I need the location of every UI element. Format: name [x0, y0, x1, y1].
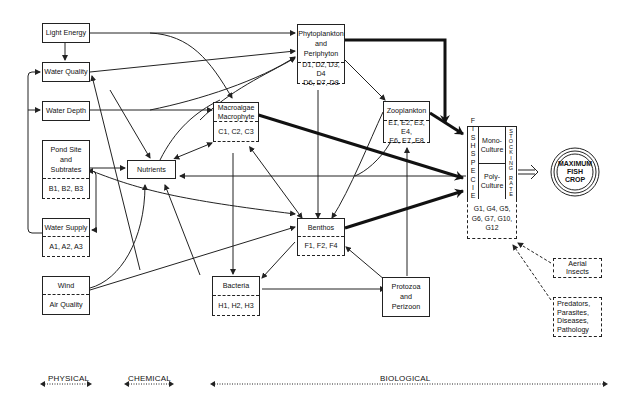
label-line: Macroalgae	[218, 103, 255, 112]
node-label: Water Quality	[44, 67, 87, 77]
node-codes: E1, E2, E3, E4, E6, E7, E8	[384, 120, 429, 142]
node-label: Water Supply	[43, 219, 89, 236]
stocking-rate-vertical-label: S T O C K I N G R A T E	[505, 127, 516, 199]
node-codes: H1, H2, H3	[213, 295, 259, 315]
codes-text: A1, A2, A3	[49, 242, 83, 252]
node-bacteria: Bacteria H1, H2, H3	[212, 276, 260, 316]
codes-text: F1, F2, F4	[304, 241, 337, 251]
label-line: Periphyton	[304, 49, 338, 59]
char: G	[509, 166, 513, 171]
label-line: Mono-	[482, 136, 502, 145]
node-label: Water Depth	[46, 106, 86, 116]
node-wind: Wind Air Quality	[42, 276, 90, 315]
char: H	[470, 142, 475, 150]
node-water-quality: Water Quality	[42, 62, 90, 82]
codes-text: G12	[486, 223, 499, 233]
label-line: and	[60, 155, 72, 165]
fish-species-vertical-label: F I S H S P E C I E S	[468, 127, 479, 199]
node-nutrients: Nutrients	[127, 160, 176, 179]
label-line: Culture	[481, 181, 504, 190]
label-line: and	[315, 39, 327, 49]
node-sub-label: Air Quality	[43, 294, 89, 314]
node-macroalgae: Macroalgae Macrophyte C1, C2, C3	[213, 102, 259, 142]
label-line: Macrophyte	[218, 112, 255, 121]
char: E	[471, 167, 476, 175]
label-line: Zooplankton	[387, 106, 427, 116]
codes-text: E6, E7, E8	[389, 136, 423, 145]
char: E	[509, 192, 513, 197]
codes-text: E1, E2, E3, E4,	[384, 118, 429, 136]
codes-text: G1, G4, G5,	[474, 204, 511, 214]
codes-text: D1, D2, D3, D4	[298, 60, 344, 78]
label-line: CROP	[553, 176, 597, 184]
char: F	[471, 117, 475, 125]
scale-biological: BIOLOGICAL	[380, 374, 430, 383]
max-fish-crop-label: MAXIMUM FISH CROP	[553, 160, 597, 184]
codes-text: H1, H2, H3	[218, 301, 254, 311]
label-line: and	[400, 292, 412, 302]
pond-ecosystem-diagram: Light Energy Water Quality Water Depth P…	[0, 0, 636, 410]
node-phytoplankton: Phytoplankton and Periphyton D1, D2, D3,…	[297, 24, 345, 84]
node-codes: F1, F2, F4	[298, 236, 344, 255]
scale-physical: PHYSICAL	[48, 374, 89, 383]
label-line: Perizoon	[392, 302, 420, 312]
node-predators: Predators, Parasites, Diseases, Patholog…	[553, 297, 602, 337]
codes-text: C1, C2, C3	[218, 127, 254, 137]
char: I	[472, 184, 474, 192]
char: I	[472, 125, 474, 133]
codes-text: B1, B2, B3	[49, 184, 83, 194]
label-line: Poly-	[484, 172, 500, 181]
node-label: Nutrients	[137, 165, 166, 175]
codes-text: G6, G7, G10,	[472, 214, 512, 224]
poly-culture: Poly- Culture	[479, 164, 505, 200]
node-label: Bacteria	[213, 277, 259, 295]
label-line: Insects	[566, 268, 589, 276]
label-line: Pond Site	[50, 145, 81, 155]
node-codes: B1, B2, B3	[43, 178, 89, 198]
fish-codes: G1, G4, G5, G6, G7, G10, G12	[467, 199, 517, 239]
label-line: Bacteria	[223, 281, 249, 291]
label-line: Protozoa	[392, 282, 421, 292]
char: P	[471, 159, 476, 167]
node-zooplankton: Zooplankton E1, E2, E3, E4, E6, E7, E8	[383, 101, 430, 143]
node-fish-species: F I S H S P E C I E S Mono- Culture Poly…	[467, 126, 517, 200]
char: S	[471, 134, 476, 142]
node-water-depth: Water Depth	[42, 101, 90, 121]
node-codes: D1, D2, D3, D4 D6, D7, D8	[298, 62, 344, 83]
node-light-energy: Light Energy	[42, 23, 90, 43]
node-codes: A1, A2, A3	[43, 236, 89, 256]
node-label: Macroalgae Macrophyte	[214, 103, 258, 121]
node-aerial-insects: Aerial Insects	[553, 258, 602, 278]
node-label: Pond Site and Subtrates	[43, 141, 89, 178]
node-label: Light Energy	[46, 28, 86, 38]
label-line: Phytoplankton	[298, 29, 344, 39]
label-line: Subtrates	[51, 165, 82, 175]
culture-column: Mono- Culture Poly- Culture	[479, 127, 505, 199]
node-protozoa: Protozoa and Perizoon	[382, 277, 430, 317]
node-water-supply: Water Supply A1, A2, A3	[42, 218, 90, 257]
label-line: FISH	[553, 168, 597, 176]
char: C	[470, 176, 475, 184]
scale-chemical: CHEMICAL	[128, 374, 171, 383]
label-line: MAXIMUM	[553, 160, 597, 168]
mono-culture: Mono- Culture	[479, 127, 505, 164]
node-pond-site: Pond Site and Subtrates B1, B2, B3	[42, 140, 90, 199]
node-codes: C1, C2, C3	[214, 121, 258, 141]
label-line: Wind	[58, 281, 74, 291]
label-line: Culture	[481, 145, 504, 154]
codes-text: D6, D7, D8	[303, 78, 339, 87]
node-label: Wind	[43, 277, 89, 294]
sub-label-text: Air Quality	[49, 300, 82, 310]
label-line: Water Supply	[45, 223, 88, 233]
label-line: Benthos	[308, 223, 334, 233]
node-label: Phytoplankton and Periphyton	[298, 25, 344, 62]
label-line: Pathology	[557, 326, 589, 335]
node-benthos: Benthos F1, F2, F4	[297, 218, 345, 256]
node-label: Benthos	[298, 219, 344, 236]
char: S	[471, 150, 476, 158]
